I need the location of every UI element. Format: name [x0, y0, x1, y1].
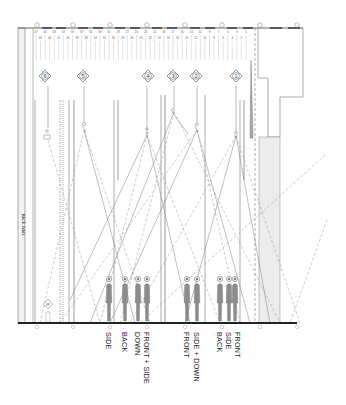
pipe-numbers: 4745434139373533312927252321191715131197… — [34, 30, 247, 40]
performer-figure — [184, 276, 190, 321]
pipe-number: 4 — [231, 36, 233, 40]
svg-text:SP: SP — [46, 303, 50, 307]
pipe-number: 33 — [98, 30, 102, 34]
svg-text:4: 4 — [146, 73, 149, 79]
svg-text:6: 6 — [43, 73, 46, 79]
performer-figure — [194, 276, 200, 321]
pipe-number: 18 — [167, 36, 171, 40]
performer-figure — [232, 276, 238, 321]
label-back-c: BACK — [216, 332, 223, 352]
pipe-number: 9 — [209, 30, 211, 34]
apron-outline — [258, 28, 303, 323]
pipe-number: 14 — [185, 36, 189, 40]
stage-floor — [18, 323, 299, 329]
pipe-number: 15 — [180, 30, 184, 34]
pipe-number: 31 — [107, 30, 111, 34]
pipe-number: 40 — [66, 36, 70, 40]
position-tags: 654321 — [39, 70, 242, 82]
pipe-number: 7 — [218, 30, 220, 34]
top-batten-line — [18, 23, 303, 28]
pipe-number: 10 — [203, 36, 207, 40]
pipe-number: 34 — [94, 36, 98, 40]
position-tag-2: 2 — [190, 70, 202, 82]
taper-element — [250, 60, 253, 138]
label-side: SIDE — [105, 332, 112, 350]
pipe-number: 1 — [245, 30, 247, 34]
pipe-number: 41 — [62, 30, 66, 34]
pipe-number: 2 — [241, 36, 243, 40]
back-wall — [18, 28, 33, 323]
position-tag-5: 5 — [77, 70, 89, 82]
pipe-number: 19 — [162, 30, 166, 34]
position-tag-3: 3 — [167, 70, 179, 82]
sp-tag: SP — [43, 299, 53, 322]
pipe-number: 22 — [148, 36, 152, 40]
pipe-number: 24 — [139, 36, 143, 40]
lighting-section-drawing: 4745434139373533312927252321191715131197… — [0, 0, 346, 405]
pipe-number: 27 — [126, 30, 130, 34]
performer-figures — [106, 276, 238, 321]
pipe-number: 46 — [39, 36, 43, 40]
pipe-number: 30 — [112, 36, 116, 40]
label-down: DOWN — [134, 332, 141, 356]
position-tag-6: 6 — [39, 70, 51, 82]
pipe-number: 6 — [222, 36, 224, 40]
pipe-number: 47 — [34, 30, 38, 34]
pipe-number: 42 — [57, 36, 61, 40]
label-front-b: FRONT — [183, 332, 190, 358]
performer-figure — [122, 276, 128, 321]
label-front-side: FRONT + SIDE — [143, 332, 150, 384]
pipe-number: 29 — [117, 30, 121, 34]
svg-text:3: 3 — [171, 73, 174, 79]
pipe-number: 43 — [53, 30, 57, 34]
label-front-c: FRONT — [234, 332, 241, 358]
pipe-number: 25 — [135, 30, 139, 34]
pipe-number: 36 — [84, 36, 88, 40]
label-side-c: SIDE — [225, 332, 232, 350]
pipe-number: 26 — [130, 36, 134, 40]
svg-text:5: 5 — [81, 73, 84, 79]
drawing-canvas: 4745434139373533312927252321191715131197… — [0, 0, 346, 405]
pipe-number: 11 — [199, 30, 202, 34]
pipe-number: 16 — [176, 36, 180, 40]
pipe-number: 45 — [43, 30, 47, 34]
svg-text:1: 1 — [234, 73, 237, 79]
pipe-number: 21 — [153, 30, 157, 34]
pipe-number: 38 — [75, 36, 79, 40]
pipe-number: 37 — [80, 30, 84, 34]
performer-figure — [135, 276, 141, 321]
performer-figure — [217, 276, 223, 321]
pipe-number: 5 — [227, 30, 229, 34]
position-tag-1: 1 — [230, 70, 242, 82]
pipe-number: 12 — [194, 36, 198, 40]
pipe-number: 23 — [144, 30, 148, 34]
performer-figure — [106, 276, 112, 321]
pipe-number: 35 — [89, 30, 93, 34]
svg-text:2: 2 — [194, 73, 197, 79]
beam-lines — [40, 112, 327, 323]
pipe-number: 3 — [236, 30, 238, 34]
pipe-number: 17 — [171, 30, 175, 34]
pipe-number: 28 — [121, 36, 125, 40]
position-tag-4: 4 — [142, 70, 154, 82]
hanging-units — [44, 86, 238, 139]
pipe-number: 13 — [190, 30, 194, 34]
pipe-number: 8 — [213, 36, 215, 40]
performer-figure — [144, 276, 150, 321]
pipe-number: 39 — [71, 30, 75, 34]
label-back: BACK — [121, 332, 128, 352]
back-wall-label: BACK WALL — [21, 214, 26, 238]
label-side-down: SIDE + DOWN — [193, 332, 200, 382]
pipe-number: 44 — [48, 36, 52, 40]
pipe-number: 20 — [158, 36, 162, 40]
pipe-number: 32 — [103, 36, 107, 40]
